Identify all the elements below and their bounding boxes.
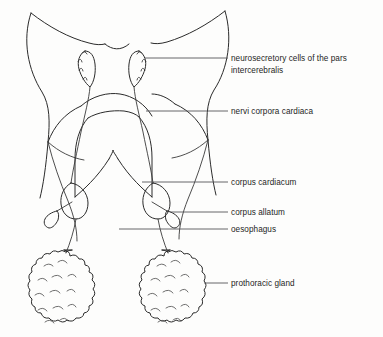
insect-endocrine-diagram: neurosecretory cells of the pars interce… xyxy=(0,0,383,337)
ganglion-top-connection xyxy=(88,111,139,118)
diagram-labels: neurosecretory cells of the pars interce… xyxy=(231,54,349,288)
brain-protocerebrum-arc-right xyxy=(152,94,175,104)
nerve-to-gland-right xyxy=(158,219,168,253)
ncc-nerve-right xyxy=(134,87,153,183)
nsc-left-lobulation xyxy=(78,52,87,80)
neurosecretory-cell-cluster-left xyxy=(78,51,95,87)
gland-right-lobule-marks xyxy=(148,260,189,323)
ganglion-floor-right xyxy=(118,159,152,197)
head-outline-right-edge xyxy=(207,11,229,195)
prothoracic-gland-nerves xyxy=(66,219,168,253)
nsc-right-outline xyxy=(129,51,146,87)
nerve-to-gland-left xyxy=(66,219,76,253)
nervi-corpora-cardiaca xyxy=(71,87,153,183)
label-prothoracic-gland: prothoracic gland xyxy=(231,279,295,288)
ca-right-stalk xyxy=(152,202,167,211)
head-capsule-outline xyxy=(27,11,229,198)
corpus-allatum-left xyxy=(44,202,72,228)
label-oesophagus: oesophagus xyxy=(231,225,276,234)
label-neurosecretory-cells: neurosecretory cells of the pars interce… xyxy=(231,54,349,75)
optic-lobe-arc-right xyxy=(172,140,208,158)
head-outline-left-edge xyxy=(27,13,49,198)
label-corpus-cardiacum: corpus cardiacum xyxy=(231,178,297,187)
ganglion-midline-notch xyxy=(109,150,118,159)
prothoracic-gland-left xyxy=(28,250,95,323)
prothoracic-gland-right xyxy=(139,250,206,323)
antenna-base-right xyxy=(151,11,225,44)
head-top-midline-notch xyxy=(105,44,129,49)
nsc-left-outline xyxy=(78,51,95,87)
label-neurosecretory-cells-line1: neurosecretory cells of the pars xyxy=(231,54,347,63)
diagram-figure: neurosecretory cells of the pars interce… xyxy=(0,0,383,337)
ganglion-floor-left xyxy=(75,159,109,197)
brain-lobes xyxy=(48,94,208,161)
ca-left-outline xyxy=(44,211,58,228)
corpus-allatum-right xyxy=(152,202,180,228)
brain-lobe-right xyxy=(175,104,208,140)
label-neurosecretory-cells-line2: intercerebralis xyxy=(231,66,283,75)
label-corpus-allatum: corpus allatum xyxy=(231,208,285,217)
antenna-base-left xyxy=(31,13,105,45)
brain-protocerebrum-arc xyxy=(81,94,152,117)
brain-lobe-left xyxy=(48,106,81,142)
label-nervi-corpora-cardiaca: nervi corpora cardiaca xyxy=(231,107,313,116)
neurosecretory-cell-cluster-right xyxy=(129,51,146,87)
nsc-right-lobulation xyxy=(137,52,146,80)
suboesophageal-ganglion xyxy=(75,111,152,197)
gland-left-outline xyxy=(28,250,95,322)
